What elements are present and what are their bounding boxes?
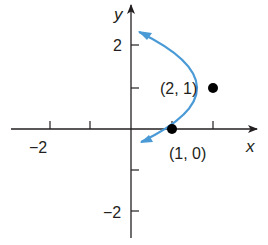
y-ticks <box>131 45 139 211</box>
point-2-1 <box>208 83 218 93</box>
x-axis-label: x <box>245 137 255 156</box>
x-tick-label-neg2: −2 <box>29 139 47 156</box>
y-tick-label-2: 2 <box>113 37 122 54</box>
point-label-1-0: (1, 0) <box>169 145 206 162</box>
y-tick-label-neg2: −2 <box>103 204 121 221</box>
graph: y x −2 2 −2 (2, 1) (1, 0) <box>0 0 268 245</box>
y-axis-label: y <box>113 5 124 24</box>
point-label-2-1: (2, 1) <box>160 80 197 97</box>
point-1-0 <box>167 124 177 134</box>
